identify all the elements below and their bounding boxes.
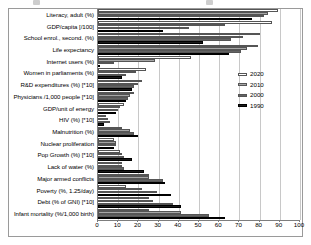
bar-group	[98, 32, 300, 44]
category-label: Debt (% of GNI) [*10]	[9, 197, 97, 209]
bar-group	[98, 21, 300, 33]
x-tick-mark	[198, 220, 199, 222]
legend: 2020201020001990	[238, 69, 282, 111]
x-tick-label: 80	[255, 222, 262, 228]
x-tick-mark	[137, 220, 138, 222]
bar-group	[98, 161, 300, 173]
bar-group	[98, 185, 300, 197]
bar-group	[98, 114, 300, 126]
category-label: Literacy, adult (%)	[9, 9, 97, 21]
bar-group	[98, 150, 300, 162]
category-label: Major armed conflicts	[9, 173, 97, 185]
x-tick-label: 90	[275, 222, 282, 228]
legend-swatch-icon	[238, 73, 247, 76]
category-label: Life expectancy	[9, 44, 97, 56]
legend-swatch-icon	[238, 94, 247, 97]
x-tick-label: 30	[154, 222, 161, 228]
bar-group	[98, 173, 300, 185]
bar-group	[98, 44, 300, 56]
x-tick-mark	[158, 220, 159, 222]
x-tick-mark	[238, 220, 239, 222]
x-tick-mark	[218, 220, 219, 222]
x-tick-mark	[279, 220, 280, 222]
x-axis-tick-labels: 0102030405060708090100	[97, 222, 299, 234]
plot-area	[97, 9, 300, 220]
category-label: Nuclear proliferation	[9, 138, 97, 150]
bar[interactable]	[98, 62, 114, 64]
x-tick-mark	[97, 220, 98, 222]
bar-group	[98, 208, 300, 220]
legend-item[interactable]: 1990	[238, 101, 282, 112]
bar-groups	[98, 9, 300, 220]
legend-swatch-icon	[238, 83, 247, 86]
legend-label: 2000	[250, 92, 264, 98]
category-label: Lack of water (%)	[9, 161, 97, 173]
category-label: Physicians /1,000 people [*10]	[9, 91, 97, 103]
legend-item[interactable]: 2020	[238, 69, 282, 80]
x-tick-label: 0	[95, 222, 98, 228]
legend-item[interactable]: 2010	[238, 80, 282, 91]
x-tick-label: 20	[134, 222, 141, 228]
bar-group	[98, 138, 300, 150]
page-artifact-left	[33, 0, 40, 5]
page-artifact-right	[206, 0, 213, 5]
category-label: Internet users (%)	[9, 56, 97, 68]
x-tick-mark	[299, 220, 300, 222]
category-label: R&D expenditures (%) [*10]	[9, 79, 97, 91]
bar-group	[98, 9, 300, 21]
bar-group	[98, 126, 300, 138]
bar-group	[98, 56, 300, 68]
legend-label: 2020	[250, 71, 264, 77]
x-tick-label: 50	[195, 222, 202, 228]
category-label: Poverty (%, 1.25/day)	[9, 185, 97, 197]
x-tick-mark	[117, 220, 118, 222]
legend-swatch-icon	[238, 104, 247, 107]
x-tick-mark	[178, 220, 179, 222]
category-label: Women in parliaments (%)	[9, 68, 97, 80]
x-tick-label: 40	[174, 222, 181, 228]
category-label: Malnutrition (%)	[9, 126, 97, 138]
category-label: HIV (%) [*10]	[9, 114, 97, 126]
x-tick-mark	[259, 220, 260, 222]
legend-item[interactable]: 2000	[238, 90, 282, 101]
x-tick-label: 100	[294, 222, 304, 228]
category-label: GDP/capita [/100]	[9, 21, 97, 33]
bar-group	[98, 197, 300, 209]
x-tick-label: 60	[215, 222, 222, 228]
category-label: School enrol., second. (%)	[9, 32, 97, 44]
legend-label: 2010	[250, 82, 264, 88]
category-label: Infant mortality (%/1,000 birth)	[9, 208, 97, 220]
category-label: GDP/unit of energy	[9, 103, 97, 115]
x-tick-label: 70	[235, 222, 242, 228]
legend-label: 1990	[250, 103, 264, 109]
category-label: Pop Growth (%) [*10]	[9, 150, 97, 162]
category-axis: Literacy, adult (%)GDP/capita [/100]Scho…	[9, 9, 97, 220]
bar-chart: Literacy, adult (%)GDP/capita [/100]Scho…	[0, 0, 311, 245]
x-tick-label: 10	[114, 222, 121, 228]
